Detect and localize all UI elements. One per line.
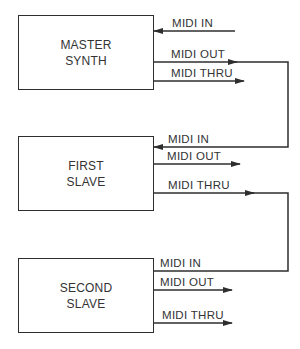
second-midi-out-label: MIDI OUT: [160, 276, 214, 288]
master-synth-label-line1: MASTER: [60, 37, 111, 53]
second-slave-label-line1: SECOND: [60, 280, 113, 296]
first-slave-label-line2: SLAVE: [67, 174, 106, 190]
first-midi-out-label: MIDI OUT: [167, 150, 221, 162]
master-midi-thru-label: MIDI THRU: [171, 67, 233, 79]
second-midi-thru-label: MIDI THRU: [162, 309, 224, 321]
master-synth-box: MASTER SYNTH: [18, 15, 154, 90]
first-midi-thru-label: MIDI THRU: [168, 179, 230, 191]
second-slave-box: SECOND SLAVE: [18, 258, 154, 333]
second-midi-in-label: MIDI IN: [160, 257, 201, 269]
master-midi-in-label: MIDI IN: [172, 17, 213, 29]
first-midi-in-label: MIDI IN: [168, 133, 209, 145]
master-midi-out-label: MIDI OUT: [171, 48, 225, 60]
master-synth-label-line2: SYNTH: [65, 53, 107, 69]
first-slave-label-line1: FIRST: [68, 158, 104, 174]
first-slave-box: FIRST SLAVE: [18, 136, 154, 211]
second-slave-label-line2: SLAVE: [67, 296, 106, 312]
